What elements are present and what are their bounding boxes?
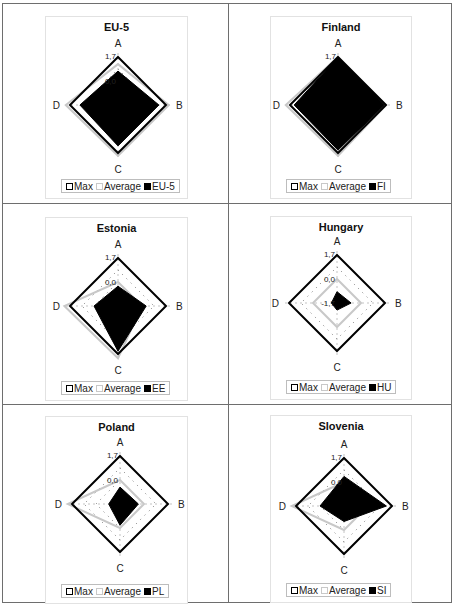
legend-label: EE bbox=[152, 383, 165, 394]
chart-legend: MaxAverageEE bbox=[61, 381, 170, 395]
legend-swatch bbox=[321, 384, 328, 391]
axis-label-a: A bbox=[115, 38, 122, 49]
legend-label: FI bbox=[377, 181, 386, 192]
radar-chart-eu-5: EU-5ABCD1,70,0MaxAverageEU-5 bbox=[45, 16, 188, 199]
legend-swatch bbox=[96, 385, 103, 392]
radar-chart-estonia: EstoniaABCD1,70,0MaxAverageEE bbox=[45, 217, 188, 401]
axis-label-b: B bbox=[396, 100, 403, 111]
legend-swatch bbox=[144, 183, 151, 190]
legend-item-average: Average bbox=[321, 382, 366, 393]
legend-label: Max bbox=[299, 382, 318, 393]
legend-item-series: EE bbox=[144, 383, 165, 394]
axis-label-a: A bbox=[335, 38, 342, 49]
chart-legend: MaxAverageSI bbox=[286, 583, 391, 597]
axis-label-a: A bbox=[117, 437, 124, 448]
chart-legend: MaxAverageFI bbox=[286, 179, 391, 193]
chart-legend: MaxAverageHU bbox=[286, 380, 396, 394]
legend-label: HU bbox=[377, 382, 391, 393]
axis-label-a: A bbox=[341, 439, 348, 450]
legend-item-max: Max bbox=[291, 585, 318, 596]
legend-item-series: SI bbox=[369, 585, 386, 596]
legend-swatch bbox=[369, 384, 376, 391]
legend-label: Average bbox=[329, 382, 366, 393]
legend-item-max: Max bbox=[66, 383, 93, 394]
legend-item-max: Max bbox=[66, 181, 93, 192]
series-polygon bbox=[294, 57, 384, 150]
tick-label-outer: 1,7 bbox=[324, 250, 336, 259]
axis-label-a: A bbox=[115, 239, 122, 250]
tick-label-outer: 1,7 bbox=[325, 52, 337, 61]
axis-label-c: C bbox=[114, 365, 121, 376]
legend-swatch bbox=[291, 183, 298, 190]
legend-label: Max bbox=[74, 181, 93, 192]
legend-item-average: Average bbox=[96, 586, 141, 597]
radar-plot: ABCD1,7 bbox=[271, 17, 411, 198]
legend-label: Max bbox=[74, 383, 93, 394]
axis-label-d: D bbox=[272, 298, 279, 309]
tick-label-outer: 1,7 bbox=[107, 451, 119, 460]
axis-label-c: C bbox=[114, 164, 121, 175]
tick-label-outer: 1,7 bbox=[105, 253, 117, 262]
legend-swatch bbox=[96, 588, 103, 595]
tick-label-outer: 1,7 bbox=[331, 453, 343, 462]
legend-swatch bbox=[144, 385, 151, 392]
axis-label-d: D bbox=[279, 501, 286, 512]
legend-label: Max bbox=[299, 181, 318, 192]
legend-label: EU-5 bbox=[152, 181, 175, 192]
radar-plot: ABCD1,70,0 bbox=[271, 416, 411, 602]
legend-item-average: Average bbox=[96, 181, 141, 192]
tick-label-mid: 0,0 bbox=[105, 77, 117, 86]
axis-label-d: D bbox=[273, 100, 280, 111]
radar-plot: ABCD1,70,0 bbox=[46, 417, 187, 603]
radar-chart-finland: FinlandABCD1,7MaxAverageFI bbox=[270, 16, 412, 199]
axis-label-c: C bbox=[334, 164, 341, 175]
chart-legend: MaxAverageEU-5 bbox=[61, 179, 180, 193]
axis-label-b: B bbox=[176, 301, 183, 312]
legend-item-series: HU bbox=[369, 382, 391, 393]
column-divider bbox=[228, 3, 229, 603]
radar-plot: ABCD1,70,0 bbox=[46, 17, 187, 198]
legend-swatch bbox=[291, 384, 298, 391]
legend-label: Max bbox=[299, 585, 318, 596]
legend-label: Max bbox=[74, 586, 93, 597]
legend-label: SI bbox=[377, 585, 386, 596]
legend-label: Average bbox=[104, 586, 141, 597]
axis-label-b: B bbox=[395, 298, 402, 309]
radar-chart-poland: PolandABCD1,70,0MaxAveragePL bbox=[45, 416, 188, 604]
legend-item-average: Average bbox=[321, 181, 366, 192]
legend-swatch bbox=[369, 587, 376, 594]
radar-plot: ABCD1,70,0 bbox=[46, 218, 187, 400]
tick-label-mid: 0,0 bbox=[105, 278, 117, 287]
legend-swatch bbox=[321, 587, 328, 594]
axis-label-c: C bbox=[340, 565, 347, 576]
tick-label-mid: 0,0 bbox=[324, 275, 336, 284]
axis-label-d: D bbox=[53, 301, 60, 312]
legend-item-max: Max bbox=[66, 586, 93, 597]
tick-label-inner: -1,7 bbox=[321, 299, 335, 308]
radar-chart-hungary: HungaryABCD1,70,0-1,7MaxAverageHU bbox=[270, 216, 412, 400]
radar-plot: ABCD1,70,0-1,7 bbox=[271, 217, 411, 399]
legend-swatch bbox=[369, 183, 376, 190]
axis-label-b: B bbox=[402, 501, 409, 512]
tick-label-mid: 0,0 bbox=[331, 478, 343, 487]
legend-swatch bbox=[66, 588, 73, 595]
legend-item-series: PL bbox=[144, 586, 164, 597]
tick-label-outer: 1,7 bbox=[105, 52, 117, 61]
legend-item-average: Average bbox=[96, 383, 141, 394]
row-divider bbox=[2, 404, 452, 405]
row-divider bbox=[2, 203, 452, 204]
legend-swatch bbox=[66, 385, 73, 392]
legend-swatch bbox=[321, 183, 328, 190]
axis-label-b: B bbox=[178, 499, 185, 510]
chart-legend: MaxAveragePL bbox=[61, 584, 169, 598]
legend-item-max: Max bbox=[291, 181, 318, 192]
axis-label-d: D bbox=[53, 100, 60, 111]
legend-label: Average bbox=[329, 585, 366, 596]
legend-label: Average bbox=[104, 181, 141, 192]
axis-label-c: C bbox=[333, 362, 340, 373]
axis-label-a: A bbox=[334, 236, 341, 247]
legend-swatch bbox=[291, 587, 298, 594]
legend-item-series: EU-5 bbox=[144, 181, 175, 192]
legend-swatch bbox=[66, 183, 73, 190]
legend-swatch bbox=[144, 588, 151, 595]
